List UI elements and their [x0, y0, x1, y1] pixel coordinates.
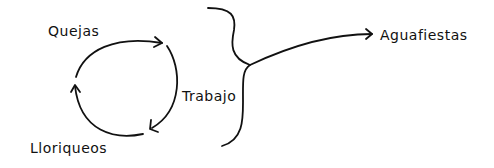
cycle-arc-trabajo-to-lloriqueos [152, 46, 177, 128]
diagram-canvas: Quejas Trabajo Lloriqueos Aguafiestas [0, 0, 494, 168]
cycle-arc-quejas-to-trabajo [76, 41, 162, 77]
node-label-quejas: Quejas [48, 23, 99, 39]
node-label-lloriqueos: Lloriqueos [30, 140, 107, 156]
arrow-to-aguafiestas [250, 34, 372, 65]
curly-brace-icon [208, 8, 250, 146]
node-label-trabajo: Trabajo [182, 88, 236, 104]
cycle-arc-lloriqueos-to-quejas [75, 86, 143, 136]
result-label-aguafiestas: Aguafiestas [380, 27, 468, 43]
